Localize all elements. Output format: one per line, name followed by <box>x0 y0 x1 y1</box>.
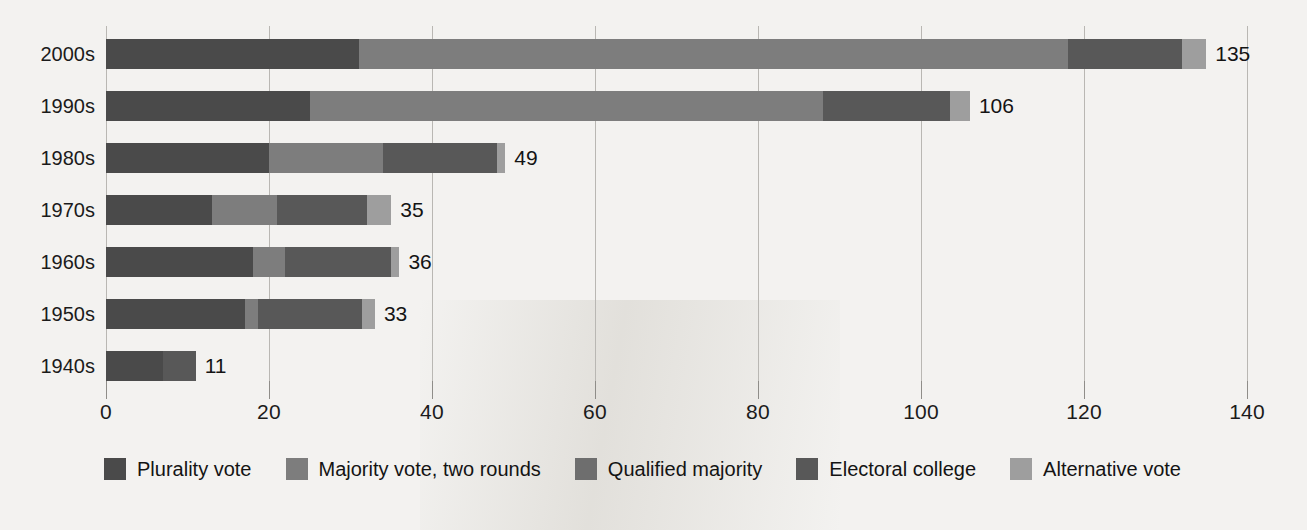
stacked-bar[interactable] <box>106 39 1206 69</box>
legend-item[interactable]: Electoral college <box>796 458 976 481</box>
bar-segment[interactable] <box>106 39 359 69</box>
legend-swatch-icon <box>796 458 818 480</box>
stacked-bar[interactable] <box>106 91 970 121</box>
bar-segment[interactable] <box>245 299 259 329</box>
y-axis-category-label: 1940s <box>41 351 96 381</box>
bar-row[interactable]: 1970s35 <box>0 195 1307 225</box>
y-axis-category-label: 1970s <box>41 195 96 225</box>
bar-total-label: 49 <box>505 143 537 173</box>
bar-segment[interactable] <box>106 195 212 225</box>
x-axis-tick <box>269 381 270 399</box>
bar-segment[interactable] <box>285 247 391 277</box>
x-axis-tick-label: 60 <box>583 400 607 424</box>
bar-total-label: 11 <box>196 351 227 381</box>
legend-item[interactable]: Majority vote, two rounds <box>286 458 541 481</box>
bar-segment[interactable] <box>310 91 823 121</box>
legend-item[interactable]: Qualified majority <box>575 458 763 481</box>
x-axis-tick-label: 120 <box>1066 400 1102 424</box>
legend-item[interactable]: Plurality vote <box>104 458 252 481</box>
legend-swatch-icon <box>104 458 126 480</box>
bar-segment[interactable] <box>258 299 362 329</box>
bar-segment[interactable] <box>950 91 970 121</box>
bar-total-label: 33 <box>375 299 407 329</box>
bar-total-label: 106 <box>970 91 1014 121</box>
x-axis-tick-label: 140 <box>1229 400 1265 424</box>
x-axis-tick <box>1084 381 1085 399</box>
chart-legend: Plurality voteMajority vote, two roundsQ… <box>104 452 1215 486</box>
bar-segment[interactable] <box>359 39 1068 69</box>
legend-item[interactable]: Alternative vote <box>1010 458 1181 481</box>
stacked-bar[interactable] <box>106 247 399 277</box>
legend-item-label: Alternative vote <box>1043 458 1181 481</box>
legend-item-label: Plurality vote <box>137 458 252 481</box>
y-axis-category-label: 1950s <box>41 299 96 329</box>
y-axis-category-label: 1990s <box>41 91 96 121</box>
bar-segment[interactable] <box>269 143 383 173</box>
bar-segment[interactable] <box>106 247 253 277</box>
bar-segment[interactable] <box>497 143 505 173</box>
x-axis-tick-label: 100 <box>903 400 939 424</box>
bar-segment[interactable] <box>383 143 497 173</box>
bar-segment[interactable] <box>367 195 391 225</box>
bar-row[interactable]: 1980s49 <box>0 143 1307 173</box>
legend-swatch-icon <box>286 458 308 480</box>
bar-total-label: 35 <box>391 195 423 225</box>
stacked-bar[interactable] <box>106 143 505 173</box>
bar-segment[interactable] <box>163 351 196 381</box>
x-axis-tick <box>432 381 433 399</box>
bar-segment[interactable] <box>253 247 286 277</box>
stacked-bar[interactable] <box>106 351 196 381</box>
x-axis-tick <box>758 381 759 399</box>
x-axis-tick-label: 80 <box>746 400 770 424</box>
bar-segment[interactable] <box>212 195 277 225</box>
legend-item-label: Majority vote, two rounds <box>319 458 541 481</box>
legend-swatch-icon <box>1010 458 1032 480</box>
bar-segment[interactable] <box>1182 39 1206 69</box>
bar-segment[interactable] <box>823 91 949 121</box>
bar-row[interactable]: 1950s33 <box>0 299 1307 329</box>
bar-segment[interactable] <box>277 195 367 225</box>
legend-item-label: Electoral college <box>829 458 976 481</box>
bar-row[interactable]: 1940s11 <box>0 351 1307 381</box>
stacked-bar[interactable] <box>106 195 391 225</box>
bar-segment[interactable] <box>362 299 375 329</box>
bar-segment[interactable] <box>106 351 163 381</box>
legend-item-label: Qualified majority <box>608 458 763 481</box>
bar-row[interactable]: 1960s36 <box>0 247 1307 277</box>
bar-segment[interactable] <box>1068 39 1182 69</box>
y-axis-category-label: 2000s <box>41 39 96 69</box>
x-axis-tick <box>595 381 596 399</box>
y-axis-category-label: 1960s <box>41 247 96 277</box>
bar-total-label: 135 <box>1206 39 1250 69</box>
stacked-bar[interactable] <box>106 299 375 329</box>
bar-segment[interactable] <box>391 247 399 277</box>
bar-row[interactable]: 2000s135 <box>0 39 1307 69</box>
legend-swatch-icon <box>575 458 597 480</box>
x-axis-tick-label: 40 <box>420 400 444 424</box>
bar-segment[interactable] <box>106 143 269 173</box>
x-axis-tick <box>1247 381 1248 399</box>
x-axis-tick-label: 0 <box>100 400 112 424</box>
x-axis-tick <box>921 381 922 399</box>
y-axis-category-label: 1980s <box>41 143 96 173</box>
x-axis-tick-label: 20 <box>257 400 281 424</box>
bar-segment[interactable] <box>106 299 245 329</box>
bar-total-label: 36 <box>399 247 431 277</box>
bar-segment[interactable] <box>106 91 310 121</box>
x-axis-tick <box>106 381 107 399</box>
bar-row[interactable]: 1990s106 <box>0 91 1307 121</box>
